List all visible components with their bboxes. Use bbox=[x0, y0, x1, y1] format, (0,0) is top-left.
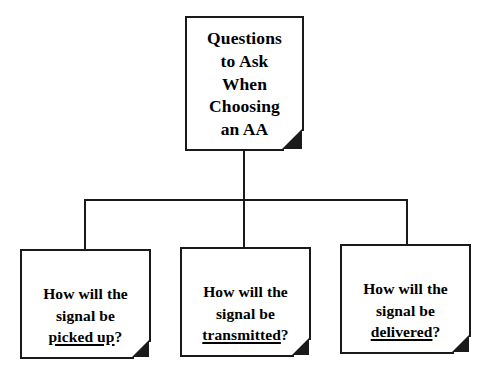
diagram-canvas: Questions to Ask When Choosing an AA How… bbox=[0, 0, 489, 388]
connector-horizontal-bus bbox=[84, 199, 408, 201]
question-mark: ? bbox=[281, 326, 289, 343]
node-delivered-label: How will the signal be delivered? bbox=[342, 278, 469, 343]
node-picked-up[interactable]: How will the signal be picked up? bbox=[20, 249, 151, 359]
node-transmitted-label: How will the signal be transmitted? bbox=[182, 281, 309, 346]
emphasis-text: transmitted bbox=[202, 326, 281, 343]
connector-drop-middle bbox=[243, 199, 245, 247]
folded-corner-icon bbox=[132, 340, 149, 357]
question-mark: ? bbox=[115, 328, 123, 345]
folded-corner-icon bbox=[452, 335, 469, 352]
folded-corner-icon bbox=[282, 129, 302, 149]
connector-drop-right bbox=[406, 199, 408, 244]
connector-drop-left bbox=[84, 199, 86, 249]
node-transmitted[interactable]: How will the signal be transmitted? bbox=[180, 247, 311, 357]
node-root-label: Questions to Ask When Choosing an AA bbox=[187, 27, 302, 141]
emphasis-text: picked up bbox=[49, 328, 115, 345]
connector-root-stem bbox=[243, 151, 245, 201]
node-picked-up-label: How will the signal be picked up? bbox=[22, 283, 149, 348]
node-root[interactable]: Questions to Ask When Choosing an AA bbox=[185, 16, 304, 151]
emphasis-text: delivered bbox=[371, 323, 433, 340]
question-mark: ? bbox=[432, 323, 440, 340]
folded-corner-icon bbox=[292, 338, 309, 355]
node-delivered[interactable]: How will the signal be delivered? bbox=[340, 244, 471, 354]
